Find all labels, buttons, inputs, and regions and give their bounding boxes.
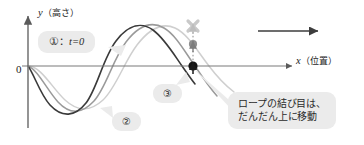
callout-label-3: ③ xyxy=(153,84,182,103)
y-axis-label: y（高さ） xyxy=(38,8,79,19)
x-axis-unit: （位置） xyxy=(301,56,337,66)
callout-label-2: ② xyxy=(112,112,141,131)
y-axis-unit: （高さ） xyxy=(43,8,79,18)
knot-note-line-1: ロープの結び目は、 xyxy=(238,97,326,110)
knot-note-line-2: だんだん上に移動 xyxy=(238,110,326,123)
marker-knot-3 xyxy=(188,21,198,34)
note-leader xyxy=(193,68,232,110)
callout-1-separator: ： xyxy=(59,36,69,47)
marker-knot-2 xyxy=(189,40,197,52)
marker-knot-1 xyxy=(188,61,197,74)
callout-2-leader xyxy=(100,106,113,118)
origin-label: 0 xyxy=(16,64,22,75)
x-axis-label: x（位置） xyxy=(296,56,337,67)
callout-1-expression: t=0 xyxy=(69,36,84,47)
wave-figure: y（高さ） x（位置） 0 ①：t=0 ② ③ ロープの結び目は、 だんだん上に… xyxy=(0,0,364,145)
knot-note-bubble: ロープの結び目は、 だんだん上に移動 xyxy=(228,92,336,129)
callout-1-marker: ① xyxy=(49,36,59,47)
callout-label-1: ①：t=0 xyxy=(38,31,95,53)
